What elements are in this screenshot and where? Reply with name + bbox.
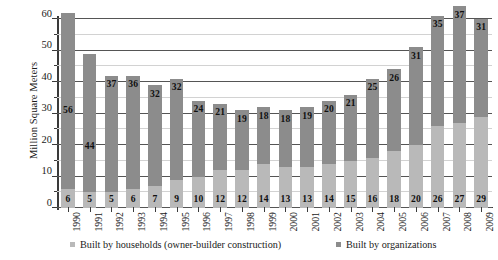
legend-entry-households[interactable]: Built by households (owner-builder const… xyxy=(70,239,281,250)
bar-value-label-organizations: 37 xyxy=(107,79,117,89)
bar-value-label-households: 18 xyxy=(389,194,399,204)
y-tick-label-60: 60 xyxy=(26,9,52,20)
x-tick-mark-2006 xyxy=(416,207,417,212)
y-tick-mark-minor-45 xyxy=(54,65,57,66)
x-tick-mark-1990 xyxy=(68,207,69,212)
x-axis-label-1998: 1998 xyxy=(246,212,256,232)
bar-value-label-organizations: 18 xyxy=(259,111,269,121)
bar-segment-organizations[interactable] xyxy=(61,13,74,189)
bar-segment-organizations[interactable] xyxy=(170,79,183,180)
x-axis-label-2004: 2004 xyxy=(376,212,386,232)
bar-group[interactable] xyxy=(148,19,161,208)
chart-legend: Built by households (owner-builder const… xyxy=(0,239,498,255)
bar-segment-organizations[interactable] xyxy=(409,47,422,145)
bar-value-label-households: 27 xyxy=(455,194,465,204)
gridline-major-10 xyxy=(57,176,492,177)
y-tick-label-40: 40 xyxy=(26,72,52,83)
x-axis-label-2000: 2000 xyxy=(289,212,299,232)
bar-group[interactable] xyxy=(105,19,118,208)
bar-value-label-households: 14 xyxy=(259,194,269,204)
y-tick-mark-minor-5 xyxy=(54,191,57,192)
legend-entry-organizations[interactable]: Built by organizations xyxy=(336,239,436,250)
gridline-minor-45 xyxy=(57,65,492,66)
x-axis-label-1990: 1990 xyxy=(72,212,82,232)
bar-group[interactable] xyxy=(409,19,422,208)
x-axis-label-2008: 2008 xyxy=(463,212,473,232)
x-tick-mark-1991 xyxy=(90,207,91,212)
bar-value-label-households: 13 xyxy=(302,194,312,204)
y-tick-mark-60 xyxy=(52,18,57,19)
bar-value-label-households: 26 xyxy=(433,194,443,204)
y-tick-mark-40 xyxy=(52,81,57,82)
bar-segment-organizations[interactable] xyxy=(474,19,487,117)
x-tick-mark-2002 xyxy=(329,207,330,212)
x-tick-mark-1998 xyxy=(242,207,243,212)
bar-group[interactable] xyxy=(431,19,444,208)
bar-group[interactable] xyxy=(366,19,379,208)
bar-value-label-households: 10 xyxy=(194,194,204,204)
bar-group[interactable] xyxy=(453,19,466,208)
bar-segment-organizations[interactable] xyxy=(148,85,161,186)
bar-value-label-organizations: 36 xyxy=(128,79,138,89)
x-tick-mark-1992 xyxy=(111,207,112,212)
bar-segment-organizations[interactable] xyxy=(431,16,444,126)
x-axis-label-1999: 1999 xyxy=(268,212,278,232)
bar-group[interactable] xyxy=(83,19,96,208)
y-tick-mark-30 xyxy=(52,113,57,114)
gridline-major-60 xyxy=(57,18,492,19)
bar-value-label-households: 12 xyxy=(215,194,225,204)
x-axis-label-2007: 2007 xyxy=(442,212,452,232)
bar-value-label-organizations: 56 xyxy=(63,105,73,115)
x-axis-label-2003: 2003 xyxy=(355,212,365,232)
bar-segment-organizations[interactable] xyxy=(83,54,96,193)
bar-group[interactable] xyxy=(387,19,400,208)
x-tick-mark-2004 xyxy=(372,207,373,212)
bar-value-label-households: 5 xyxy=(109,194,114,204)
y-tick-mark-0 xyxy=(52,207,57,208)
bar-value-label-households: 12 xyxy=(237,194,247,204)
bar-group[interactable] xyxy=(126,19,139,208)
gridline-minor-25 xyxy=(57,128,492,129)
gridline-minor-35 xyxy=(57,97,492,98)
bar-value-label-organizations: 21 xyxy=(215,107,225,117)
bar-value-label-organizations: 31 xyxy=(411,51,421,61)
x-tick-mark-1999 xyxy=(264,207,265,212)
bar-segment-organizations[interactable] xyxy=(105,76,118,193)
x-tick-mark-2007 xyxy=(438,207,439,212)
bar-group[interactable] xyxy=(170,19,183,208)
bar-segment-organizations[interactable] xyxy=(126,76,139,189)
bar-value-label-organizations: 20 xyxy=(324,104,334,114)
y-tick-label-30: 30 xyxy=(26,103,52,114)
x-tick-mark-1993 xyxy=(133,207,134,212)
bar-value-label-households: 5 xyxy=(87,194,92,204)
x-tick-mark-1994 xyxy=(155,207,156,212)
x-tick-mark-1995 xyxy=(177,207,178,212)
y-tick-mark-minor-55 xyxy=(54,34,57,35)
y-tick-label-20: 20 xyxy=(26,135,52,146)
bar-group[interactable] xyxy=(474,19,487,208)
y-tick-label-50: 50 xyxy=(26,40,52,51)
x-axis-label-1993: 1993 xyxy=(137,212,147,232)
x-tick-mark-2001 xyxy=(307,207,308,212)
x-tick-mark-1997 xyxy=(220,207,221,212)
bar-group[interactable] xyxy=(344,19,357,208)
bar-value-label-organizations: 32 xyxy=(150,89,160,99)
x-axis-label-1992: 1992 xyxy=(115,212,125,232)
gridline-major-50 xyxy=(57,50,492,51)
y-tick-label-0: 0 xyxy=(26,198,52,209)
gridline-minor-55 xyxy=(57,34,492,35)
x-axis-label-2009: 2009 xyxy=(485,212,495,232)
gridline-major-20 xyxy=(57,144,492,145)
bar-value-label-households: 29 xyxy=(476,194,486,204)
bar-value-label-organizations: 21 xyxy=(346,98,356,108)
x-axis-label-1991: 1991 xyxy=(94,212,104,232)
y-tick-mark-minor-25 xyxy=(54,128,57,129)
legend-label: Built by households (owner-builder const… xyxy=(80,239,281,250)
x-tick-mark-2000 xyxy=(285,207,286,212)
gridline-minor-15 xyxy=(57,160,492,161)
bar-value-label-households: 20 xyxy=(411,194,421,204)
x-axis-label-2002: 2002 xyxy=(333,212,343,232)
bar-segment-organizations[interactable] xyxy=(453,6,466,123)
bar-value-label-households: 16 xyxy=(368,194,378,204)
bar-value-label-organizations: 35 xyxy=(433,19,443,29)
